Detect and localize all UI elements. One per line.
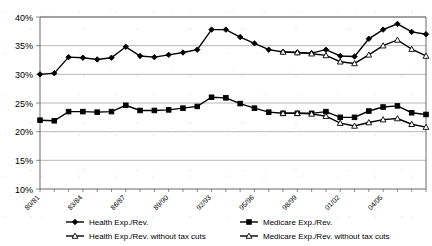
legend-item-label: Medicare Exp./Rev. without tax cuts: [263, 232, 390, 241]
x-axis-tick-label: 95/96: [238, 194, 255, 211]
y-axis-tick-label: 15%: [15, 156, 33, 166]
series-2-marker: [66, 109, 71, 114]
series-0-marker: [80, 55, 85, 60]
x-axis-tick-label: 92/93: [195, 194, 212, 211]
series-2-marker: [395, 104, 400, 109]
series-2-marker: [123, 103, 128, 108]
x-axis-tick-label: 80/81: [23, 194, 40, 211]
series-2-marker: [409, 110, 414, 115]
y-axis-tick-label: 10%: [15, 185, 33, 195]
series-0-marker: [409, 29, 414, 34]
series-2-marker: [352, 115, 357, 120]
series-2-marker: [81, 109, 86, 114]
y-axis-tick-label: 25%: [15, 99, 33, 109]
legend-swatch-marker: [247, 220, 252, 225]
y-axis-tick-label: 40%: [15, 13, 33, 23]
x-axis-tick-label: 01/02: [324, 194, 341, 211]
chart-container: 40%35%30%25%20%15%10%80/8183/8486/8789/9…: [0, 0, 432, 246]
x-axis-tick-label: 83/84: [66, 194, 83, 211]
series-2-marker: [266, 110, 271, 115]
line-chart: 40%35%30%25%20%15%10%80/8183/8486/8789/9…: [0, 0, 432, 246]
series-2-marker: [181, 106, 186, 111]
series-0-marker: [37, 72, 42, 77]
series-0-marker: [338, 53, 343, 58]
legend-item-label: Health Exp./Rev.: [89, 218, 148, 227]
series-2-marker: [52, 118, 57, 123]
series-2-marker: [152, 108, 157, 113]
x-axis-tick-label: 86/87: [109, 194, 126, 211]
series-0-marker: [166, 52, 171, 57]
series-2-marker: [138, 108, 143, 113]
series-0-marker: [252, 41, 257, 46]
series-2-marker: [95, 110, 100, 115]
series-2-marker: [195, 104, 200, 109]
x-axis-tick-label: 98/99: [281, 194, 298, 211]
series-2-marker: [424, 112, 429, 117]
series-0-marker: [323, 47, 328, 52]
y-axis-tick-label: 35%: [15, 41, 33, 51]
series-2-marker: [166, 108, 171, 113]
series-2-marker: [209, 95, 214, 100]
x-axis-tick-label: 04/05: [366, 194, 383, 211]
series-1-marker: [395, 37, 401, 42]
series-2-marker: [224, 96, 229, 101]
series-0-marker: [180, 50, 185, 55]
series-line-0: [40, 24, 426, 74]
series-2-marker: [381, 105, 386, 110]
series-0-marker: [266, 47, 271, 52]
series-0-marker: [237, 34, 242, 39]
legend-item-label: Medicare Exp./Rev.: [263, 218, 332, 227]
legend-swatch-marker: [72, 219, 77, 224]
series-2-marker: [109, 109, 114, 114]
x-axis-tick-label: 89/90: [152, 194, 169, 211]
series-0-marker: [423, 32, 428, 37]
y-axis-tick-label: 30%: [15, 70, 33, 80]
series-0-marker: [395, 21, 400, 26]
y-axis-tick-label: 20%: [15, 127, 33, 137]
series-0-marker: [223, 27, 228, 32]
legend-item-label: Health Exp./Rev. without tax cuts: [89, 232, 206, 241]
series-2-marker: [252, 106, 257, 111]
series-0-marker: [152, 54, 157, 59]
series-2-marker: [367, 109, 372, 114]
series-2-marker: [38, 118, 43, 123]
series-0-marker: [94, 57, 99, 62]
series-2-marker: [338, 115, 343, 120]
series-2-marker: [238, 101, 243, 106]
